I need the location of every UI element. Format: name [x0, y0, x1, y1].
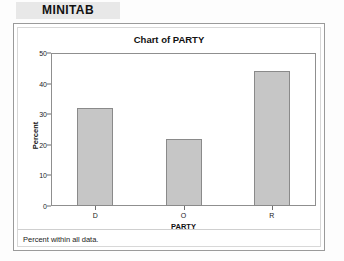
y-axis: Percent 01020304050 — [18, 53, 51, 206]
footer-divider — [18, 229, 320, 230]
chart-title: Chart of PARTY — [18, 34, 320, 45]
x-axis-tick-label: O — [181, 212, 186, 219]
y-axis-tick-label: 40 — [39, 80, 47, 87]
bar-series — [51, 53, 316, 206]
bar-D — [77, 108, 113, 206]
minitab-wordmark: MINITAB — [16, 2, 120, 19]
y-axis-label: Percent — [31, 101, 40, 171]
x-axis-tick-label: D — [93, 212, 98, 219]
footer-note: Percent within all data. — [23, 235, 98, 244]
y-axis-tick-label: 50 — [39, 50, 47, 57]
x-axis-tick-mark — [184, 206, 185, 210]
bar-O — [166, 139, 202, 206]
y-axis-tick-label: 20 — [39, 141, 47, 148]
y-axis-tick-label: 10 — [39, 172, 47, 179]
x-axis-tick-mark — [272, 206, 273, 210]
x-axis-tick-mark — [95, 206, 96, 210]
bar-R — [254, 71, 290, 206]
y-axis-tick-label: 30 — [39, 111, 47, 118]
chart-panel: Chart of PARTY Percent 01020304050 DOR P… — [13, 23, 325, 251]
minitab-chart-screenshot: MINITAB Chart of PARTY Percent 010203040… — [0, 0, 344, 261]
chart-panel-inner: Chart of PARTY Percent 01020304050 DOR P… — [17, 27, 321, 247]
x-axis-tick-label: R — [269, 212, 274, 219]
